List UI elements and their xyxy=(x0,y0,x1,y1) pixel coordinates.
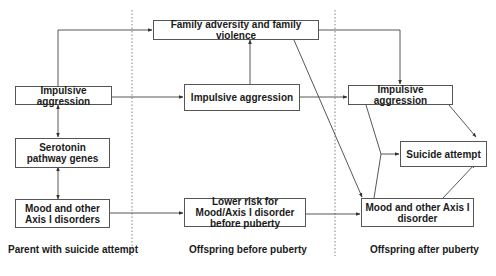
node-suicide-attempt: Suicide attempt xyxy=(400,141,487,167)
node-offspring-post-mood-disorder: Mood and other Axis I disorder xyxy=(361,198,474,227)
node-offspring-post-impulsive-aggression: Impulsive aggression xyxy=(348,85,453,105)
node-family-adversity: Family adversity and family violence xyxy=(153,20,319,40)
phase-label-offspring-after: Offspring after puberty xyxy=(370,244,479,255)
phase-label-parent: Parent with suicide attempt xyxy=(8,244,138,255)
suicide-risk-pathway-diagram: Family adversity and family violence Imp… xyxy=(0,0,496,276)
node-serotonin-pathway-genes: Serotonin pathway genes xyxy=(15,138,110,168)
node-parent-mood-disorders: Mood and other Axis I disorders xyxy=(15,199,110,228)
node-offspring-pre-impulsive-aggression: Impulsive aggression xyxy=(184,84,300,111)
node-parent-impulsive-aggression: Impulsive aggression xyxy=(15,86,112,105)
phase-label-offspring-before: Offspring before puberty xyxy=(189,244,307,255)
node-offspring-pre-lower-risk: Lower risk for Mood/Axis I disorder befo… xyxy=(184,198,306,227)
